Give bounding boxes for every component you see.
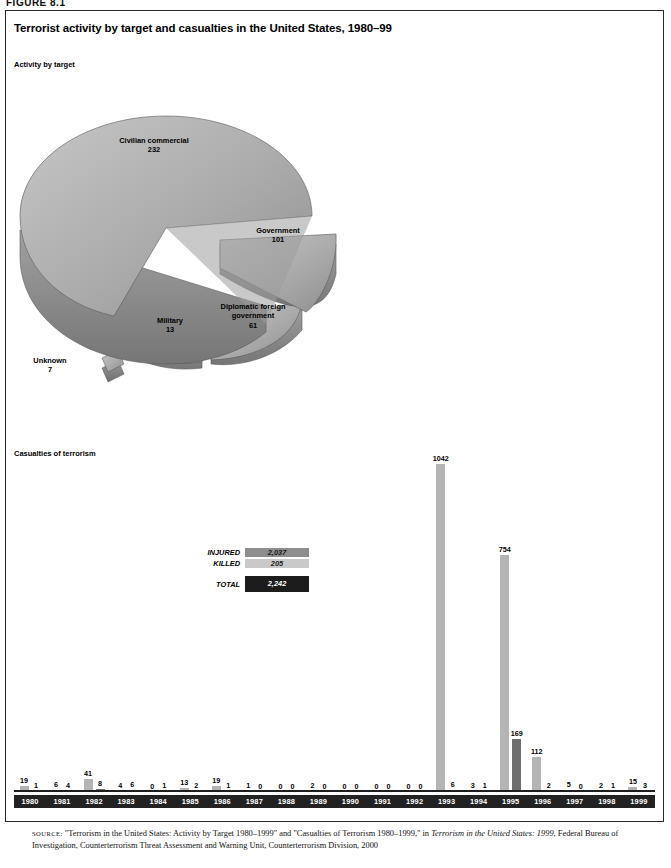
bar-value-label-killed-1982: 8 (98, 779, 102, 788)
section-heading-casualties: Casualties of terrorism (14, 449, 96, 458)
bar-injured-1996: 112 (532, 757, 541, 792)
pie-label-military-text: Military (157, 316, 183, 325)
bar-value-label-injured-1986: 19 (212, 776, 220, 785)
year-tick-1997: 1997 (559, 795, 591, 808)
bar-group-1993: 10426 (431, 464, 463, 792)
bar-value-label-injured-1983: 4 (118, 781, 122, 790)
page-title: Terrorist activity by target and casualt… (14, 22, 392, 34)
bar-chart-year-axis: 1980198119821983198419851986198719881989… (14, 795, 655, 808)
source-text-1: "Terrorism in the United States: Activit… (63, 829, 432, 838)
year-tick-1998: 1998 (591, 795, 623, 808)
bar-value-label-killed-1998: 1 (611, 781, 615, 790)
source-prefix: SOURCE: (32, 830, 63, 837)
pie-label-unknown-value: 7 (48, 365, 52, 374)
source-note: SOURCE: "Terrorism in the United States:… (32, 828, 642, 852)
bar-value-label-injured-1998: 2 (599, 781, 603, 790)
pie-chart-activity-by-target: Civilian commercial 232 Government 101 D… (6, 68, 356, 408)
year-tick-1993: 1993 (431, 795, 463, 808)
bar-value-label-injured-1996: 112 (531, 747, 543, 756)
bar-value-label-killed-1980: 1 (34, 781, 38, 790)
bar-value-label-killed-1996: 2 (547, 781, 551, 790)
bar-injured-1995: 754 (500, 555, 509, 792)
year-tick-1995: 1995 (495, 795, 527, 808)
year-tick-1983: 1983 (110, 795, 142, 808)
bar-value-label-injured-1981: 6 (54, 780, 58, 789)
source-italic-1: Terrorism in the United States: 1999 (431, 829, 553, 838)
pie-label-diplomatic-value: 61 (249, 321, 257, 330)
year-tick-1990: 1990 (334, 795, 366, 808)
bar-value-label-killed-1985: 2 (194, 781, 198, 790)
year-tick-1986: 1986 (206, 795, 238, 808)
bar-value-label-injured-1999: 15 (629, 777, 637, 786)
year-tick-1999: 1999 (623, 795, 655, 808)
pie-label-civilian-commercial: Civilian commercial 232 (106, 136, 202, 155)
bar-value-label-killed-1981: 4 (66, 781, 70, 790)
bar-value-label-injured-1980: 19 (20, 776, 28, 785)
bar-value-label-killed-1983: 6 (130, 780, 134, 789)
year-tick-1985: 1985 (174, 795, 206, 808)
casualties-bar-chart: 1916441846011321911000200000001042631754… (14, 462, 655, 792)
pie-label-government-value: 101 (272, 235, 284, 244)
bar-injured-1993: 1042 (436, 464, 445, 792)
year-tick-1988: 1988 (270, 795, 302, 808)
year-tick-1996: 1996 (527, 795, 559, 808)
year-tick-1981: 1981 (46, 795, 78, 808)
pie-label-military: Military 13 (140, 316, 200, 335)
bar-value-label-killed-1993: 6 (451, 780, 455, 789)
year-tick-1994: 1994 (463, 795, 495, 808)
pie-label-diplomatic: Diplomatic foreign government 61 (218, 302, 288, 330)
pie-label-civilian-commercial-text: Civilian commercial (119, 136, 188, 145)
bar-value-label-killed-1994: 1 (483, 781, 487, 790)
bar-group-1996: 1122 (527, 757, 559, 792)
pie-label-military-value: 13 (166, 325, 174, 334)
year-tick-1989: 1989 (302, 795, 334, 808)
pie-label-government: Government 101 (238, 226, 318, 245)
bar-value-label-killed-1999: 3 (643, 781, 647, 790)
bar-value-label-injured-1982: 41 (84, 769, 92, 778)
year-tick-1987: 1987 (238, 795, 270, 808)
bar-value-label-injured-1994: 3 (471, 781, 475, 790)
bar-value-label-injured-1987: 1 (246, 781, 250, 790)
bar-group-1995: 754169 (495, 555, 527, 792)
bar-killed-1995: 169 (512, 739, 521, 792)
bar-chart-axis (14, 790, 655, 792)
year-tick-1982: 1982 (78, 795, 110, 808)
year-tick-1991: 1991 (367, 795, 399, 808)
bar-value-label-injured-1989: 2 (310, 781, 314, 790)
year-tick-1984: 1984 (142, 795, 174, 808)
pie-label-civilian-commercial-value: 232 (148, 145, 160, 154)
bar-value-label-killed-1995: 169 (511, 729, 523, 738)
pie-label-diplomatic-text: Diplomatic foreign government (221, 302, 286, 320)
bar-value-label-injured-1993: 1042 (433, 454, 449, 463)
bar-value-label-killed-1986: 1 (226, 781, 230, 790)
year-tick-1992: 1992 (399, 795, 431, 808)
pie-label-unknown: Unknown 7 (20, 356, 80, 375)
figure-label: FIGURE 8.1 (6, 0, 65, 8)
year-tick-1980: 1980 (14, 795, 46, 808)
pie-label-unknown-text: Unknown (33, 356, 66, 365)
bar-value-label-injured-1997: 5 (567, 780, 571, 789)
bar-value-label-killed-1984: 1 (162, 781, 166, 790)
bar-value-label-injured-1995: 754 (499, 545, 511, 554)
pie-label-government-text: Government (256, 226, 300, 235)
bar-value-label-injured-1985: 13 (180, 778, 188, 787)
